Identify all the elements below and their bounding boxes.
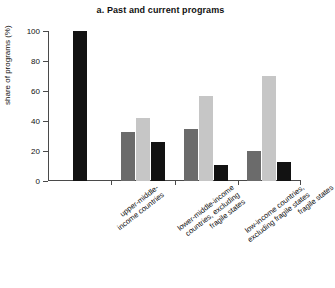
bar [121,132,135,182]
y-axis-label: share of programs (%) [3,25,12,105]
y-tick-label: 80 [31,57,40,66]
y-tick-label: 100 [27,27,40,36]
chart-title: a. Past and current programs [0,5,321,15]
y-tick-label: 60 [31,87,40,96]
bar [136,118,150,181]
y-tick-label: 0 [36,177,40,186]
bar [277,162,291,182]
bar [184,129,198,182]
y-tick [43,61,48,62]
y-tick-label: 20 [31,147,40,156]
y-tick [43,121,48,122]
y-tick [43,31,48,32]
x-axis-label-0: upper-middle-income countries [110,183,166,232]
bar [262,76,276,181]
bar [151,142,165,181]
y-axis-line [48,31,49,181]
plot-area: 020406080100 [48,31,301,181]
y-tick [43,151,48,152]
y-tick [43,181,48,182]
x-axis-label-1: lower-middle-incomecountries, excludingf… [176,183,247,247]
y-tick-label: 40 [31,117,40,126]
bar [199,96,213,182]
y-tick [43,91,48,92]
bar [214,165,228,182]
x-axis-category-labels: upper-middle-income countrieslower-middl… [48,183,301,288]
bar [73,31,87,181]
bar [247,151,261,181]
